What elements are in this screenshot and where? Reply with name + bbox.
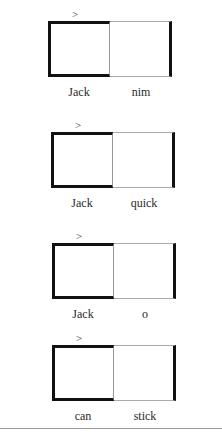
cell-label-left: Jack — [48, 85, 110, 100]
node-cell-right — [114, 345, 176, 401]
separator-line — [0, 428, 222, 429]
node-group-3: > Jack o — [52, 235, 176, 325]
node-cell-right — [114, 243, 176, 299]
node-cell-left — [52, 243, 114, 299]
cell-label-right: nim — [110, 85, 172, 100]
pointer-arrow-icon: > — [75, 120, 81, 131]
pointer-arrow-icon: > — [72, 9, 78, 20]
pointer-arrow-icon: > — [76, 333, 82, 344]
cell-label-right: stick — [114, 409, 176, 424]
cell-label-right: quick — [113, 196, 175, 211]
node-cell-left — [48, 21, 110, 77]
node-cell-left — [52, 345, 114, 401]
node-group-4: > can stick — [52, 337, 176, 427]
node-group-1: > Jack nim — [48, 13, 172, 103]
node-cell-right — [110, 21, 172, 77]
pointer-arrow-icon: > — [76, 231, 82, 242]
cell-label-left: Jack — [52, 307, 114, 322]
cell-label-right: o — [114, 307, 176, 322]
node-group-2: > Jack quick — [51, 124, 175, 214]
cell-label-left: can — [52, 409, 114, 424]
node-cell-right — [113, 132, 175, 188]
cell-label-left: Jack — [51, 196, 113, 211]
node-cell-left — [51, 132, 113, 188]
